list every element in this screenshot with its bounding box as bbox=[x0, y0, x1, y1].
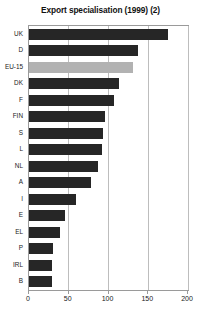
y-axis-category-labels: UKDEU-15DKFFINSLNLAIEELPIRLB bbox=[0, 25, 25, 291]
bar-row bbox=[29, 177, 188, 188]
bar-row bbox=[29, 144, 188, 155]
bar-row bbox=[29, 161, 188, 172]
bar-a bbox=[29, 177, 91, 188]
bar-b bbox=[29, 276, 52, 287]
y-axis-label-nl: NL bbox=[15, 162, 23, 169]
x-axis-tick-label-100: 100 bbox=[102, 294, 114, 303]
bar-row bbox=[29, 29, 188, 40]
x-axis-tick-labels: 050100150200 bbox=[0, 294, 201, 308]
bar-el bbox=[29, 227, 61, 238]
y-axis-label-b: B bbox=[19, 277, 23, 284]
chart-title: Export specialisation (1999) (2) bbox=[0, 5, 201, 15]
x-axis-tick-label-50: 50 bbox=[64, 294, 72, 303]
bar-eu-15 bbox=[29, 62, 133, 73]
y-axis-label-eu-15: EU-15 bbox=[5, 63, 23, 70]
bar-e bbox=[29, 210, 66, 221]
plot-area bbox=[28, 25, 189, 291]
y-axis-label-i: I bbox=[21, 195, 23, 202]
y-axis-label-a: A bbox=[19, 178, 23, 185]
bar-row bbox=[29, 128, 188, 139]
chart-container: Export specialisation (1999) (2) UKDEU-1… bbox=[0, 0, 201, 315]
bar-row bbox=[29, 260, 188, 271]
bar-s bbox=[29, 128, 104, 139]
bar-row bbox=[29, 62, 188, 73]
y-axis-label-irl: IRL bbox=[13, 261, 23, 268]
bar-d bbox=[29, 45, 139, 56]
bar-i bbox=[29, 194, 77, 205]
bar-row bbox=[29, 276, 188, 287]
bar-row bbox=[29, 45, 188, 56]
y-axis-label-f: F bbox=[19, 96, 23, 103]
bar-nl bbox=[29, 161, 99, 172]
y-axis-label-d: D bbox=[18, 46, 23, 53]
bar-uk bbox=[29, 29, 168, 40]
bars-layer bbox=[29, 26, 188, 290]
bar-row bbox=[29, 78, 188, 89]
bar-row bbox=[29, 111, 188, 122]
y-axis-label-s: S bbox=[19, 129, 23, 136]
bar-dk bbox=[29, 78, 120, 89]
bar-p bbox=[29, 243, 54, 254]
bar-fin bbox=[29, 111, 105, 122]
bar-row bbox=[29, 243, 188, 254]
bar-row bbox=[29, 194, 188, 205]
y-axis-label-dk: DK bbox=[14, 79, 23, 86]
y-axis-label-uk: UK bbox=[14, 30, 23, 37]
y-axis-label-fin: FIN bbox=[13, 112, 23, 119]
x-axis-tick-label-0: 0 bbox=[26, 294, 30, 303]
bar-row bbox=[29, 95, 188, 106]
y-axis-label-p: P bbox=[19, 244, 23, 251]
x-axis-tick-label-150: 150 bbox=[141, 294, 153, 303]
bar-irl bbox=[29, 260, 53, 271]
bar-l bbox=[29, 144, 102, 155]
x-axis-tick-label-200: 200 bbox=[181, 294, 193, 303]
gridline bbox=[188, 26, 189, 290]
bar-f bbox=[29, 95, 114, 106]
y-axis-label-l: L bbox=[19, 145, 23, 152]
y-axis-label-e: E bbox=[19, 211, 23, 218]
bar-row bbox=[29, 227, 188, 238]
y-axis-label-el: EL bbox=[15, 228, 23, 235]
bar-row bbox=[29, 210, 188, 221]
